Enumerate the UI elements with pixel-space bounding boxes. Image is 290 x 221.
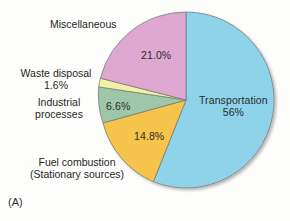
leader-label-waste-disposal-name: Waste disposal: [8, 68, 104, 80]
slice-value-waste-disposal: 1.6%: [8, 80, 104, 92]
leader-label-waste-disposal: Waste disposal 1.6%: [8, 68, 104, 92]
leader-label-industrial-processes-line2: processes: [18, 109, 100, 121]
slice-label-transportation-name: Transportation: [199, 95, 268, 107]
leader-label-fuel-combustion-line1: Fuel combustion: [10, 157, 144, 169]
slice-value-transportation: 56%: [199, 107, 268, 119]
slice-value-industrial-processes: 6.6%: [106, 101, 130, 113]
leader-label-industrial-processes-line1: Industrial: [18, 97, 100, 109]
leader-label-industrial-processes: Industrial processes: [18, 97, 100, 121]
leader-label-fuel-combustion: Fuel combustion (Stationary sources): [10, 157, 144, 181]
pie-chart-figure: 21.0% 6.6% 14.8% Transportation 56% Misc…: [0, 0, 290, 221]
leader-label-fuel-combustion-line2: (Stationary sources): [10, 169, 144, 181]
leader-label-miscellaneous: Miscellaneous: [50, 19, 117, 31]
figure-caption: (A): [8, 196, 23, 208]
slice-label-transportation: Transportation 56%: [199, 95, 268, 119]
slice-value-fuel-combustion: 14.8%: [134, 131, 164, 143]
slice-value-miscellaneous: 21.0%: [141, 50, 171, 62]
